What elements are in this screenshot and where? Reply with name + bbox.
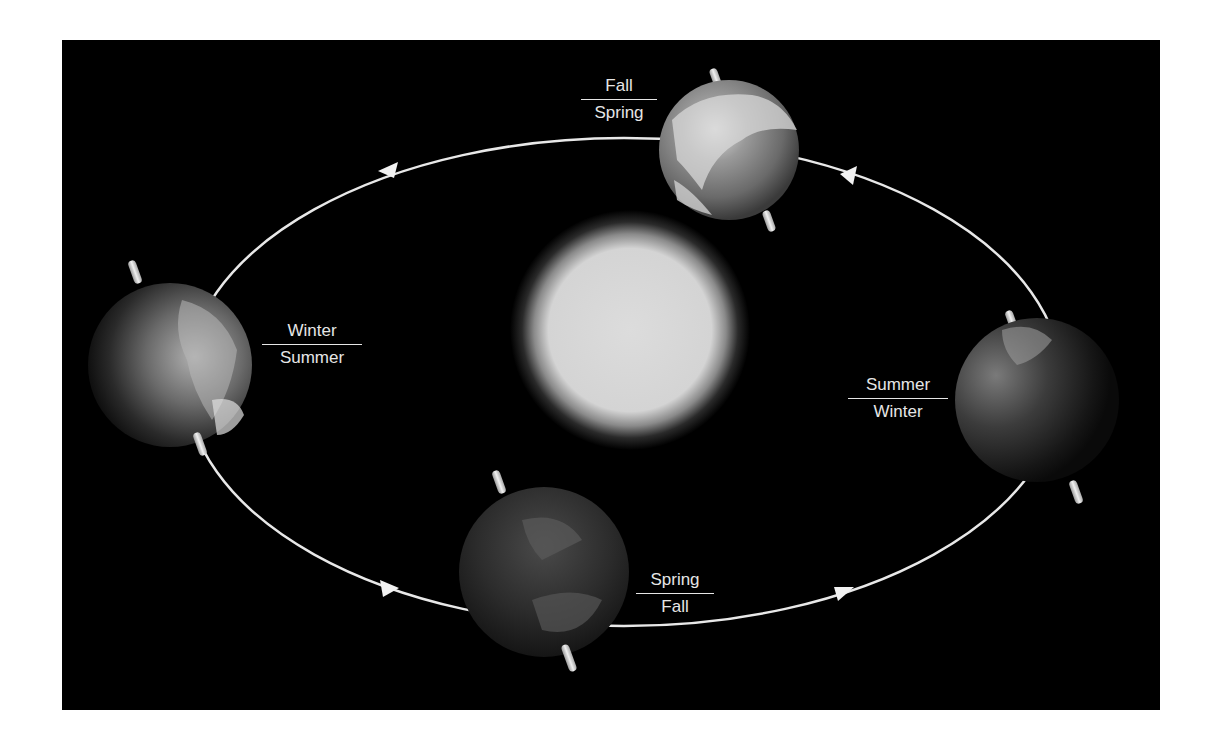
earth-left	[88, 259, 252, 456]
label-divider	[262, 344, 362, 345]
season-label-right: Summer Winter	[848, 375, 948, 422]
label-divider	[581, 99, 657, 100]
season-label-bottom-upper: Spring	[636, 570, 714, 590]
season-label-top: Fall Spring	[581, 76, 657, 123]
season-label-left-upper: Winter	[262, 321, 362, 341]
earth-right	[955, 309, 1119, 504]
label-divider	[636, 593, 714, 594]
season-label-right-upper: Summer	[848, 375, 948, 395]
season-label-top-lower: Spring	[581, 103, 657, 123]
season-label-top-upper: Fall	[581, 76, 657, 96]
season-label-left: Winter Summer	[262, 321, 362, 368]
earth-top	[659, 67, 799, 232]
orbit-scene	[62, 40, 1160, 710]
season-label-right-lower: Winter	[848, 402, 948, 422]
diagram-panel: Fall Spring Winter Summer Spring Fall Su…	[62, 40, 1160, 710]
season-label-bottom: Spring Fall	[636, 570, 714, 617]
earth-bottom	[459, 469, 629, 672]
label-divider	[848, 398, 948, 399]
sun	[510, 210, 750, 450]
season-label-bottom-lower: Fall	[636, 597, 714, 617]
season-label-left-lower: Summer	[262, 348, 362, 368]
